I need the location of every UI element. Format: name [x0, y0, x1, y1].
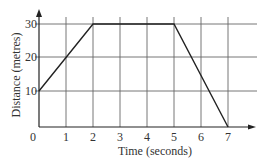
- data-line: [39, 24, 228, 127]
- x-tick-0: 0: [30, 130, 36, 144]
- x-tick-2: 2: [90, 130, 96, 144]
- x-tick-7: 7: [225, 130, 231, 144]
- grid-horizontal: [35, 24, 257, 91]
- x-tick-5: 5: [171, 130, 177, 144]
- x-tick-3: 3: [117, 130, 123, 144]
- x-axis-label: Time (seconds): [118, 144, 192, 158]
- grid-vertical: [66, 17, 228, 127]
- x-tick-1: 1: [63, 130, 69, 144]
- y-axis-arrow-icon: [36, 9, 42, 17]
- x-axis-arrow-icon: [248, 125, 256, 130]
- y-tick-10: 10: [25, 84, 37, 98]
- distance-time-chart: 30 20 10 0 1 2 3 4 5 6 7 Time (seconds) …: [0, 0, 273, 165]
- y-tick-30: 30: [25, 17, 37, 31]
- x-tick-4: 4: [144, 130, 150, 144]
- y-tick-20: 20: [25, 50, 37, 64]
- y-axis-label: Distance (metres): [9, 33, 23, 118]
- x-tick-6: 6: [198, 130, 204, 144]
